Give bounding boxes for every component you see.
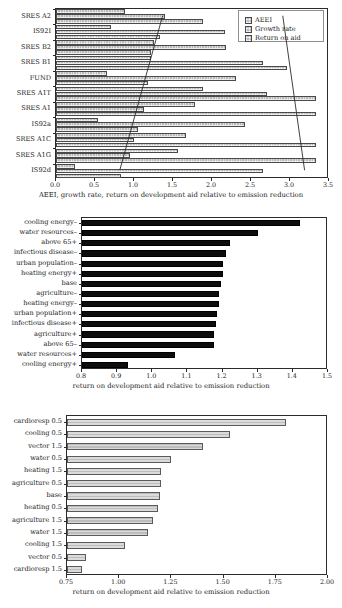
y-axis-tick-label: heating 0.5: [24, 504, 62, 511]
x-axis-ticks-middle: 0.80.91.01.11.21.31.41.5: [0, 369, 342, 383]
y-axis-tick-label: infectious disease+: [12, 320, 77, 327]
x-axis-tick-label: 0.75: [59, 578, 73, 586]
y-axis-tick-label: vector 1.5: [28, 442, 62, 449]
y-axis-tick-label: heating energy–: [23, 300, 77, 307]
bar: [67, 517, 153, 524]
x-axis-tick-label: 2.00: [320, 578, 334, 586]
x-axis-tick-label: 0.8: [76, 372, 86, 380]
y-axis-tick-label: urban population+: [14, 310, 77, 317]
x-axis-tick-label: 1.4: [287, 372, 297, 380]
bar: [67, 529, 148, 536]
bar: [82, 291, 219, 297]
y-axis-tick-label: agriculture–: [36, 290, 77, 297]
chart-panel-middle: cooling energy–water resources–above 65+…: [0, 205, 342, 403]
x-axis-tick-label: 1.0: [146, 372, 156, 380]
y-axis-tick-label: water 0.5: [30, 455, 62, 462]
x-axis-title-middle: return on development aid relative to em…: [0, 382, 342, 390]
y-axis-tick-label: above 65–: [43, 340, 77, 347]
bar: [82, 331, 214, 337]
bar: [82, 240, 230, 246]
bar: [82, 301, 219, 307]
y-axis-tick-label: vector 0.5: [28, 553, 62, 560]
y-axis-tick-label: above 65+: [41, 239, 77, 246]
bar: [67, 431, 230, 438]
x-axis-tick-label: 1.75: [268, 578, 282, 586]
x-axis-tick-label: 1.2: [216, 372, 226, 380]
x-axis-title-bottom: return on development aid relative to em…: [0, 588, 342, 596]
chart-panel-bottom: cardioresp 0.5cooling 0.5vector 1.5water…: [0, 403, 342, 608]
y-axis-tick-label: agriculture 0.5: [12, 479, 62, 486]
bar: [82, 362, 128, 368]
bar: [67, 468, 161, 475]
bar: [82, 281, 221, 287]
y-axis-tick-label: cooling 0.5: [25, 430, 62, 437]
growth-rate-trend: [120, 16, 163, 171]
return-on-aid-trend: [283, 16, 305, 171]
y-axis-labels-bottom: cardioresp 0.5cooling 0.5vector 1.5water…: [0, 415, 62, 575]
bar: [82, 261, 223, 267]
bar: [67, 542, 125, 549]
bar: [82, 342, 214, 348]
x-axis-ticks-bottom: 0.751.001.251.501.752.00: [0, 575, 342, 589]
y-axis-tick-label: water resources–: [20, 229, 77, 236]
bar: [67, 480, 161, 487]
bar: [67, 443, 203, 450]
bar: [82, 220, 300, 226]
y-axis-tick-label: cooling energy–: [24, 219, 77, 226]
y-axis-tick-label: agriculture 1.5: [12, 516, 62, 523]
y-axis-tick-label: base: [62, 280, 77, 287]
bar: [67, 566, 82, 573]
plot-area-bottom: [66, 415, 327, 575]
bar: [67, 419, 286, 426]
bar: [82, 271, 223, 277]
bar: [67, 554, 86, 561]
bar: [82, 230, 258, 236]
x-axis-tick-label: 1.25: [163, 578, 177, 586]
bar: [67, 456, 171, 463]
bar: [82, 352, 175, 358]
plot-area-middle: [81, 217, 327, 369]
x-axis-tick-label: 1.50: [215, 578, 229, 586]
y-axis-tick-label: urban population–: [16, 259, 77, 266]
y-axis-tick-label: heating energy+: [21, 269, 77, 276]
x-axis-tick-label: 1.00: [111, 578, 125, 586]
y-axis-tick-label: cardioresp 1.5: [14, 566, 62, 573]
x-axis-tick-label: 1.3: [252, 372, 262, 380]
bar: [82, 250, 226, 256]
bar: [82, 321, 216, 327]
y-axis-tick-label: cooling energy+: [22, 361, 77, 368]
y-axis-tick-label: water 1.5: [30, 529, 62, 536]
trend-lines-top: [0, 0, 342, 205]
y-axis-tick-label: water resources+: [17, 351, 77, 358]
x-axis-tick-label: 1.5: [322, 372, 332, 380]
y-axis-labels-middle: cooling energy–water resources–above 65+…: [0, 217, 77, 369]
bar: [67, 492, 160, 499]
y-axis-tick-label: infectious disease–: [14, 249, 77, 256]
x-axis-tick-label: 0.9: [111, 372, 121, 380]
bar: [67, 505, 158, 512]
bar: [82, 311, 217, 317]
y-axis-tick-label: cooling 1.5: [25, 541, 62, 548]
y-axis-tick-label: heating 1.5: [24, 467, 62, 474]
y-axis-tick-label: agriculture+: [34, 330, 77, 337]
chart-panel-top: SRES A2IS92ISRES B2SRES B1FUNDSRES A1TSR…: [0, 0, 342, 205]
x-axis-tick-label: 1.1: [181, 372, 191, 380]
y-axis-tick-label: cardioresp 0.5: [14, 418, 62, 425]
y-axis-tick-label: base: [47, 492, 62, 499]
